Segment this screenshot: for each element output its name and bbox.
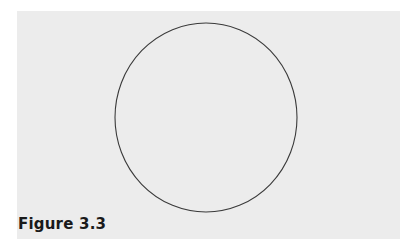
figure-caption: Figure 3.3 [18, 215, 106, 233]
circle-shape [115, 23, 297, 212]
figure-drawing [0, 0, 420, 241]
